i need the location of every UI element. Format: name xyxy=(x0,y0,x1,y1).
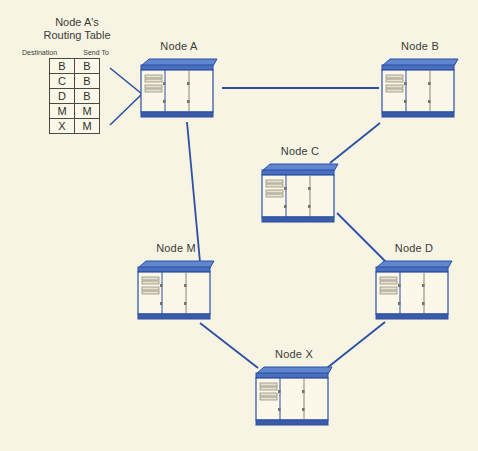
cell-destination: B xyxy=(50,59,75,74)
node-b-label: Node B xyxy=(378,40,462,52)
routing-table-title: Node A's Routing Table xyxy=(22,16,132,42)
routing-table: Node A's Routing Table Destination Send … xyxy=(22,16,132,134)
server-icon xyxy=(134,256,218,322)
table-row: X M xyxy=(50,119,100,134)
server-icon xyxy=(137,54,221,120)
server-icon xyxy=(378,54,462,120)
cell-send-to: B xyxy=(75,59,100,74)
link-a-m xyxy=(187,122,200,262)
link-m-x xyxy=(200,323,258,368)
column-header-send-to: Send To xyxy=(68,49,124,56)
table-row: D B xyxy=(50,89,100,104)
table-row: M M xyxy=(50,104,100,119)
node-m[interactable]: Node M xyxy=(134,242,218,322)
routing-table-body: B B C B D B M M X M xyxy=(50,59,100,134)
node-x[interactable]: Node X xyxy=(252,348,336,428)
routing-table-grid: B B C B D B M M X M xyxy=(49,58,100,134)
node-x-label: Node X xyxy=(252,348,336,360)
node-d-label: Node D xyxy=(372,242,456,254)
server-icon xyxy=(258,159,342,225)
cell-destination: M xyxy=(50,104,75,119)
server-icon xyxy=(372,256,456,322)
cell-destination: C xyxy=(50,74,75,89)
node-a[interactable]: Node A xyxy=(137,40,221,120)
node-b[interactable]: Node B xyxy=(378,40,462,120)
node-m-label: Node M xyxy=(134,242,218,254)
node-c[interactable]: Node C xyxy=(258,145,342,225)
table-row: C B xyxy=(50,74,100,89)
cell-send-to: B xyxy=(75,74,100,89)
column-header-destination: Destination xyxy=(22,49,68,56)
server-icon xyxy=(252,362,336,428)
routing-table-title-line2: Routing Table xyxy=(22,29,132,42)
network-diagram-canvas: Node A's Routing Table Destination Send … xyxy=(0,0,478,451)
cell-destination: X xyxy=(50,119,75,134)
cell-destination: D xyxy=(50,89,75,104)
cell-send-to: M xyxy=(75,104,100,119)
node-a-label: Node A xyxy=(137,40,221,52)
node-d[interactable]: Node D xyxy=(372,242,456,322)
cell-send-to: M xyxy=(75,119,100,134)
cell-send-to: B xyxy=(75,89,100,104)
routing-table-headers: Destination Send To xyxy=(22,49,132,56)
node-c-label: Node C xyxy=(258,145,342,157)
table-row: B B xyxy=(50,59,100,74)
routing-table-title-line1: Node A's xyxy=(22,16,132,29)
